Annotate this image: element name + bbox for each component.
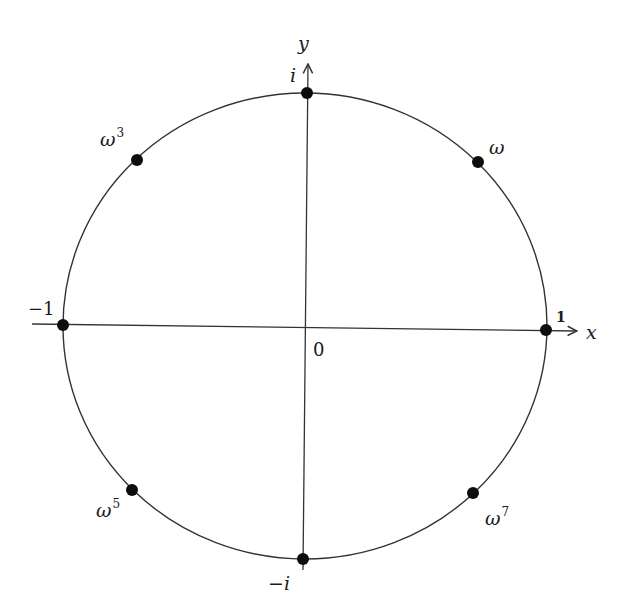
point-i [301, 87, 313, 99]
label-omega7-exp: 7 [502, 505, 510, 519]
label-omega5: ω5 [96, 497, 120, 521]
x-axis-label: x [586, 321, 597, 343]
label-omega3-base: ω [100, 128, 116, 150]
label-minus-one: −1 [28, 298, 55, 319]
label-minus-i: −i [268, 572, 290, 594]
label-i: i [290, 64, 296, 86]
point-omega7 [467, 487, 479, 499]
origin-label: 0 [313, 339, 324, 360]
unit-circle-diagram: x y 0 1 ω i ω3 −1 ω5 −i ω7 [0, 0, 633, 612]
point-minus-one [57, 319, 69, 331]
label-omega5-exp: 5 [113, 497, 121, 511]
label-omega3-exp: 3 [117, 126, 125, 140]
label-omega3: ω3 [100, 126, 124, 150]
point-omega3 [131, 154, 143, 166]
x-axis [32, 324, 577, 331]
y-axis-label: y [297, 32, 309, 54]
label-omega5-base: ω [96, 499, 112, 521]
y-axis [303, 64, 308, 570]
label-one: 1 [556, 309, 566, 325]
label-omega7-base: ω [485, 507, 501, 529]
point-minus-i [297, 553, 309, 565]
label-omega: ω [489, 136, 505, 158]
point-one [540, 324, 552, 336]
point-omega5 [126, 484, 138, 496]
label-omega7: ω7 [485, 505, 509, 529]
point-omega [472, 156, 484, 168]
